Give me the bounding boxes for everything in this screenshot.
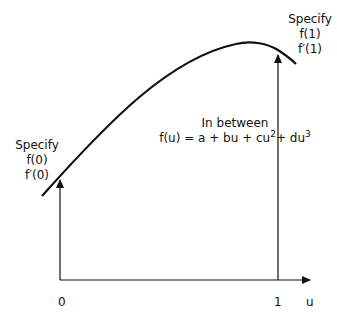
right-endpoint-annotation: Specify f(1) f′(1)	[286, 12, 334, 57]
axis-tick-1: 1	[274, 295, 282, 309]
axis-label-u: u	[306, 295, 314, 309]
left-f0-label: f(0)	[4, 153, 70, 168]
right-specify-label: Specify	[286, 12, 334, 27]
right-f1-label: f(1)	[286, 27, 334, 42]
cubic-formula: f(u) = a + bu + cu2+ du3	[145, 131, 325, 146]
left-endpoint-annotation: Specify f(0) f′(0)	[4, 138, 70, 183]
right-fprime1-label: f′(1)	[286, 42, 334, 57]
in-between-title: In between	[145, 116, 325, 131]
axis-tick-0: 0	[58, 295, 66, 309]
in-between-annotation: In between f(u) = a + bu + cu2+ du3	[145, 116, 325, 146]
formula-prefix: f(u) = a + bu + cu	[159, 131, 270, 145]
left-specify-label: Specify	[4, 138, 70, 153]
formula-exponent-3: 3	[305, 129, 311, 139]
formula-mid: + du	[276, 131, 305, 145]
left-fprime0-label: f′(0)	[4, 168, 70, 183]
